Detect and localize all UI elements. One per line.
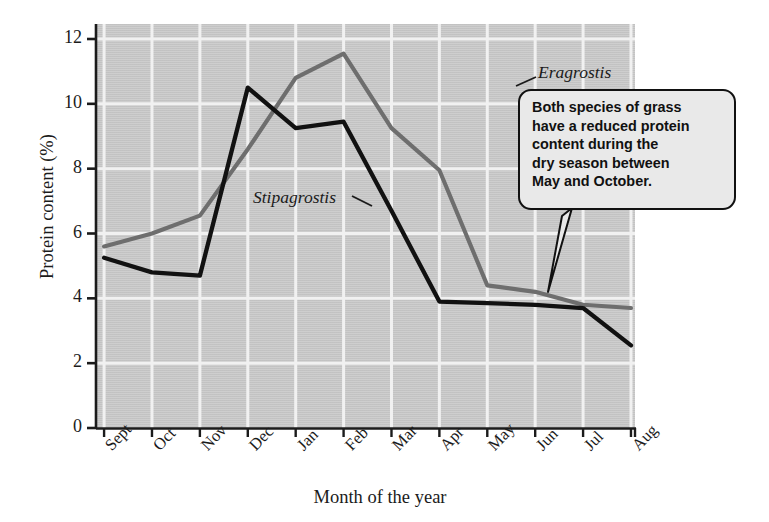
protein-content-line-chart: 024681012 SeptOctNovDecJanFebMarAprMayJu… — [0, 0, 769, 522]
callout-text-line: Both species of grass — [532, 98, 724, 117]
callout-text-line: have a reduced protein — [532, 117, 724, 136]
callout-pointer — [548, 208, 572, 292]
callout-text-line: content during the — [532, 135, 724, 154]
y-tick-label: 12 — [40, 27, 82, 48]
y-tick-marks-group — [87, 39, 96, 428]
series-label-eragrostis: Eragrostis — [538, 62, 611, 83]
y-tick-label: 0 — [40, 416, 82, 437]
callout-text: Both species of grasshave a reduced prot… — [520, 91, 734, 191]
callout-text-line: May and October. — [532, 172, 724, 191]
series-label-stipagrostis: Stipagrostis — [253, 187, 336, 208]
y-tick-label: 2 — [40, 351, 82, 372]
dry-season-callout: Both species of grasshave a reduced prot… — [518, 89, 736, 210]
eragrostis-leader-line — [516, 77, 536, 86]
x-axis-title: Month of the year — [250, 487, 510, 508]
y-axis-title: Protein content (%) — [37, 82, 58, 332]
callout-text-line: dry season between — [532, 154, 724, 173]
stipagrostis-leader-line — [352, 196, 372, 206]
